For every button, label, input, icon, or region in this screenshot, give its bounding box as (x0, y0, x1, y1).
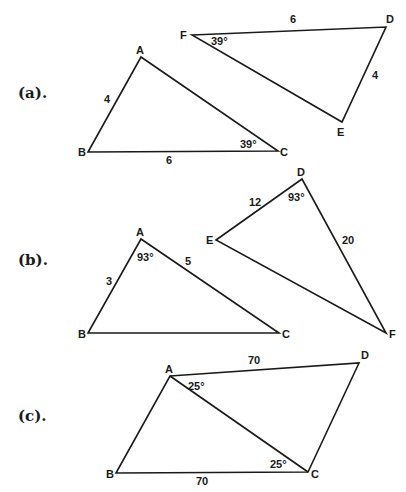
angle-label-d: 93° (288, 191, 305, 203)
vertex-label-e: E (337, 126, 344, 138)
side-label-fd: 6 (290, 13, 296, 25)
vertex-label-c: C (282, 328, 290, 340)
side-label-ab: 3 (106, 275, 112, 287)
angle-label-c: 39° (240, 138, 257, 150)
part-label-a: (a). (18, 84, 47, 102)
vertex-label-b: B (106, 468, 114, 480)
angle-label-acb: 25° (270, 458, 287, 470)
part-a-triangle-def: F D E 6 4 39° (180, 13, 394, 138)
vertex-label-a: A (136, 226, 144, 238)
part-c: (c). A D B C 70 70 25° 25° (18, 349, 369, 487)
side-label-bc: 6 (166, 154, 172, 166)
side-label-ac: 5 (185, 255, 191, 267)
part-label-c: (c). (18, 407, 47, 425)
part-b-triangle-def: D E F 12 20 93° (206, 166, 396, 340)
vertex-label-f: F (180, 29, 187, 41)
congruence-diagram: (a). A B C 4 6 39° F D E 6 4 39° (b). A … (0, 0, 406, 492)
angle-label-dac: 25° (188, 380, 205, 392)
vertex-label-d: D (297, 166, 305, 178)
vertex-label-f: F (389, 328, 396, 340)
part-b-triangle-abc: A B C 3 5 93° (78, 226, 290, 340)
part-a: (a). A B C 4 6 39° F D E 6 4 39° (18, 13, 394, 166)
side-label-df: 20 (342, 234, 354, 246)
angle-label-f: 39° (211, 35, 228, 47)
side-label-bc: 70 (196, 475, 208, 487)
part-a-triangle-abc: A B C 4 6 39° (78, 44, 288, 166)
side-label-ad: 70 (248, 354, 260, 366)
vertex-label-e: E (206, 234, 213, 246)
side-label-ab: 4 (104, 93, 111, 105)
vertex-label-c: C (280, 146, 288, 158)
angle-label-a: 93° (137, 251, 154, 263)
side-label-de: 12 (249, 196, 261, 208)
vertex-label-d: D (361, 349, 369, 361)
part-b: (b). A B C 3 5 93° D E F 12 20 93° (18, 166, 396, 340)
triangle-abc-outline (88, 239, 279, 333)
vertex-label-a: A (165, 363, 173, 375)
side-label-de: 4 (372, 69, 379, 81)
vertex-label-c: C (311, 468, 319, 480)
part-c-quadrilateral: A D B C 70 70 25° 25° (106, 349, 369, 487)
vertex-label-d: D (386, 13, 394, 25)
part-label-b: (b). (18, 251, 48, 269)
quadrilateral-abcd-outline (116, 363, 359, 473)
vertex-label-b: B (78, 328, 86, 340)
vertex-label-a: A (136, 44, 144, 56)
vertex-label-b: B (78, 146, 86, 158)
